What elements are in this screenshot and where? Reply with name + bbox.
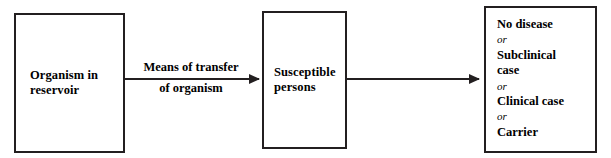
arrow-label-line: Means of transfer — [130, 57, 252, 78]
outcome-item: No disease — [497, 17, 591, 32]
node-label-line: Organism in — [30, 68, 98, 82]
node-susceptible-persons-label: Susceptible persons — [274, 65, 339, 95]
arrowhead-icon — [469, 74, 480, 84]
outcome-connector: or — [497, 79, 591, 94]
outcome-item: Clinical case — [497, 94, 591, 109]
node-label-line: persons — [274, 80, 316, 94]
outcome-connector: or — [497, 109, 591, 124]
outcome-item: Subclinical — [497, 48, 591, 63]
arrow-means-of-transfer-label: Means of transfer of organism — [130, 57, 252, 99]
arrow-label-line: of organism — [130, 78, 252, 99]
node-label-line: reservoir — [30, 83, 79, 97]
chain-of-infection-diagram: Organism in reservoir Means of transfer … — [0, 0, 611, 158]
node-organism-in-reservoir: Organism in reservoir — [14, 13, 125, 153]
node-organism-in-reservoir-label: Organism in reservoir — [30, 68, 117, 98]
node-label-line: Susceptible — [274, 65, 336, 79]
arrow-to-outcomes — [347, 78, 479, 80]
outcome-item: case — [497, 63, 591, 78]
outcome-list: No disease or Subclinical case or Clinic… — [497, 17, 591, 140]
outcome-connector: or — [497, 32, 591, 47]
node-susceptible-persons: Susceptible persons — [262, 11, 347, 149]
outcome-item: Carrier — [497, 125, 591, 140]
node-infection-outcomes: No disease or Subclinical case or Clinic… — [484, 6, 597, 153]
